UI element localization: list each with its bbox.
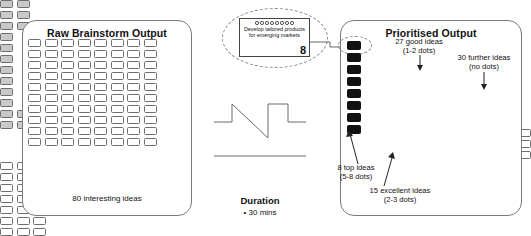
raw-idea-box (45, 94, 58, 102)
excellent-ideas-annotation: 15 excellent ideas (2-3 dots) (345, 186, 455, 204)
vote-dot (285, 21, 289, 25)
raw-idea-box (111, 72, 124, 80)
good-idea-box (33, 217, 46, 225)
good-idea-box (17, 217, 30, 225)
raw-idea-box (94, 83, 107, 91)
top-idea-box (347, 77, 361, 86)
top-ideas-arrow-icon (344, 130, 362, 164)
excellent-idea-box (0, 99, 13, 107)
good-idea-box-row (0, 217, 531, 225)
callout-score: 8 (300, 44, 306, 56)
excellent-idea-box (0, 121, 13, 129)
excellent-idea-box (0, 0, 13, 8)
top-idea-box (347, 65, 361, 74)
vote-dot (290, 21, 294, 25)
raw-idea-box (45, 116, 58, 124)
raw-idea-box (94, 39, 107, 47)
raw-idea-box (28, 72, 41, 80)
raw-idea-box (28, 138, 41, 146)
raw-idea-box (144, 72, 157, 80)
excellent-idea-box (0, 44, 13, 52)
excellent-idea-box (0, 33, 13, 41)
further-ideas-label-line1: 30 further ideas (440, 53, 528, 62)
raw-idea-box (45, 127, 58, 135)
raw-idea-box (144, 116, 157, 124)
further-ideas-arrow-icon (478, 72, 490, 90)
diagram-canvas: Raw Brainstorm Output 80 interesting ide… (0, 0, 531, 236)
raw-idea-box (127, 61, 140, 69)
further-ideas-annotation: 30 further ideas (no dots) (440, 53, 528, 71)
excellent-ideas-label-line1: 15 excellent ideas (345, 186, 455, 195)
duration-value: 30 mins (249, 208, 277, 217)
vote-dot (270, 21, 274, 25)
top-ideas-column (347, 41, 361, 134)
raw-idea-box (111, 83, 124, 91)
raw-idea-grid (28, 39, 146, 146)
duration-title: Duration (205, 195, 315, 206)
callout-dot-row (242, 21, 307, 25)
raw-idea-box (111, 50, 124, 58)
callout-idea-text: Develop tailored products for emerging m… (242, 26, 307, 39)
good-idea-box (0, 184, 13, 192)
excellent-idea-box (0, 66, 13, 74)
top-idea-box (347, 89, 361, 98)
raw-idea-box (144, 83, 157, 91)
excellent-ideas-arrow-icon (380, 152, 398, 186)
excellent-idea-box (17, 0, 30, 8)
raw-idea-box (45, 138, 58, 146)
raw-idea-box (127, 127, 140, 135)
excellent-idea-box (0, 88, 13, 96)
raw-idea-box (78, 83, 91, 91)
raw-idea-box (78, 72, 91, 80)
raw-idea-box (111, 105, 124, 113)
raw-idea-box (78, 61, 91, 69)
raw-idea-box (28, 83, 41, 91)
raw-idea-box (127, 39, 140, 47)
top-idea-box (347, 101, 361, 110)
raw-panel-caption: 80 interesting ideas (23, 194, 191, 203)
raw-idea-box (28, 61, 41, 69)
raw-idea-box (127, 72, 140, 80)
raw-idea-box (144, 105, 157, 113)
excellent-idea-box (0, 11, 13, 19)
raw-idea-box (94, 94, 107, 102)
raw-idea-box (45, 83, 58, 91)
raw-idea-box (61, 105, 74, 113)
good-idea-box (0, 173, 13, 181)
top-idea-box (347, 41, 361, 50)
duration-arrow-icon (214, 88, 306, 188)
raw-idea-box (127, 116, 140, 124)
raw-idea-box (61, 116, 74, 124)
vote-dot (275, 21, 279, 25)
good-idea-box (0, 228, 13, 236)
good-idea-box (33, 228, 46, 236)
raw-idea-box (78, 94, 91, 102)
raw-idea-box (78, 50, 91, 58)
top-ideas-label-line2: (5-8 dots) (327, 172, 385, 181)
raw-idea-box (127, 83, 140, 91)
good-ideas-label-line1: 27 good ideas (383, 37, 455, 46)
further-ideas-label-line2: (no dots) (440, 62, 528, 71)
excellent-ideas-label-line2: (2-3 dots) (345, 195, 455, 204)
raw-idea-box (78, 127, 91, 135)
raw-idea-box (61, 127, 74, 135)
raw-idea-box (127, 105, 140, 113)
raw-idea-box (111, 39, 124, 47)
raw-idea-box (28, 105, 41, 113)
vote-dot (280, 21, 284, 25)
raw-idea-box (28, 94, 41, 102)
excellent-idea-box-row (0, 0, 531, 8)
raw-idea-box (111, 61, 124, 69)
raw-idea-box (45, 39, 58, 47)
raw-idea-box (94, 138, 107, 146)
excellent-idea-box (0, 110, 13, 118)
raw-idea-box (94, 105, 107, 113)
raw-idea-box (94, 116, 107, 124)
raw-idea-box (78, 39, 91, 47)
raw-idea-box (28, 39, 41, 47)
good-idea-box (0, 206, 13, 214)
raw-idea-box (45, 105, 58, 113)
vote-dot (265, 21, 269, 25)
raw-idea-box (127, 94, 140, 102)
top-ideas-annotation: 8 top ideas (5-8 dots) (327, 163, 385, 181)
